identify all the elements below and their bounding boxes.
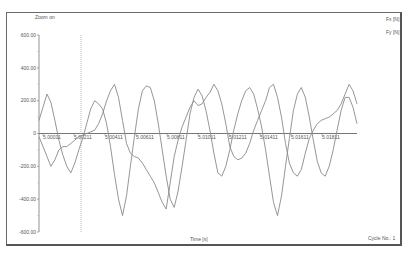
x-tick-label: 5.00611 bbox=[136, 134, 154, 140]
x-tick-label: 5.01811 bbox=[322, 134, 340, 140]
y-tick-label: 400.00 bbox=[21, 65, 37, 71]
x-tick-label: 5.01611 bbox=[291, 134, 309, 140]
y-tick-label: -600.00 bbox=[19, 229, 36, 235]
y-tick-label: 0 bbox=[33, 130, 36, 136]
series-fy-line bbox=[39, 84, 357, 209]
x-tick-label: 5.01011 bbox=[198, 134, 216, 140]
y-tick-label: -400.00 bbox=[19, 196, 36, 202]
x-tick-label: 5.00411 bbox=[105, 134, 123, 140]
x-tick-label: 5.00811 bbox=[167, 134, 185, 140]
y-tick-label: 200.00 bbox=[21, 97, 37, 103]
plot-area[interactable]: 600.00400.00200.000-200.00-400.00-600.00… bbox=[0, 0, 410, 256]
y-tick-label: 600.00 bbox=[21, 32, 37, 38]
y-tick-label: -200.00 bbox=[19, 163, 36, 169]
